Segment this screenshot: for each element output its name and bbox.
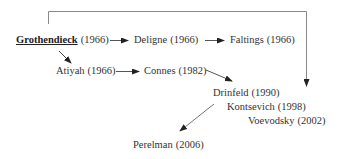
edge-grothendieck-atiyah [59,51,71,63]
node-year: (1966) [267,34,295,45]
node-name: Kontsevich [227,101,275,112]
node-kontsevich: Kontsevich(1998) [227,101,306,113]
node-voevodsky: Voevodsky(2002) [248,115,325,127]
node-atiyah: Atiyah(1966) [56,65,116,77]
node-year: (2002) [297,115,325,126]
edge-drinfeld-perelman [180,104,214,131]
node-year: (2006) [176,139,204,150]
node-connes: Connes(1982) [144,65,207,77]
node-name: Perelman [133,139,173,150]
node-year: (1966) [170,34,198,45]
node-name: Grothendieck [16,34,78,45]
node-name: Connes [144,65,176,76]
node-year: (1966) [81,34,109,45]
node-perelman: Perelman(2006) [133,139,204,151]
node-deligne: Deligne(1966) [134,34,198,46]
node-year: (1990) [252,87,280,98]
node-name: Faltings [230,34,264,45]
lineage-diagram: Grothendieck(1966) Deligne(1966) Falting… [0,0,340,159]
edges-layer [0,0,340,159]
node-drinfeld: Drinfeld(1990) [213,87,280,99]
node-grothendieck: Grothendieck(1966) [16,34,109,46]
node-year: (1998) [278,101,306,112]
node-name: Deligne [134,34,167,45]
node-name: Voevodsky [248,115,294,126]
node-name: Atiyah [56,65,85,76]
node-faltings: Faltings(1966) [230,34,295,46]
node-year: (1982) [179,65,207,76]
node-year: (1966) [88,65,116,76]
edge-connes-drinfeld [206,70,232,81]
node-name: Drinfeld [213,87,249,98]
